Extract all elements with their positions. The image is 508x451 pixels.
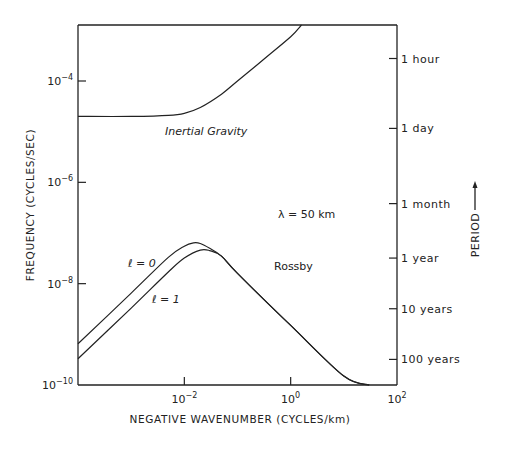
- plot-frame: [78, 25, 397, 385]
- x-axis-ticks: 10−2100102: [171, 377, 406, 406]
- inertial-gravity-curve: [78, 25, 302, 116]
- lambda-label: λ = 50 km: [278, 208, 335, 221]
- y-tick-label: 10−6: [47, 174, 73, 189]
- period-tick-label: 1 month: [401, 198, 451, 211]
- y-tick-label: 10−4: [47, 73, 73, 88]
- period-tick-label: 1 year: [401, 252, 439, 265]
- period-axis-title: PERIOD: [469, 213, 482, 258]
- l0-label: ℓ = 0: [127, 257, 156, 270]
- x-tick-label: 10−2: [171, 391, 197, 406]
- x-tick-label: 102: [387, 391, 406, 406]
- period-tick-label: 1 day: [401, 122, 434, 135]
- curves: [78, 25, 369, 385]
- l1-label: ℓ = 1: [151, 293, 180, 306]
- rossby-l0-curve: [78, 243, 369, 385]
- y-tick-label: 10−8: [47, 276, 73, 291]
- period-arrow-icon: [473, 181, 478, 210]
- y-axis-ticks: 10−410−610−810−10: [42, 73, 86, 392]
- period-axis-ticks: 1 hour1 day1 month1 year10 years100 year…: [389, 53, 460, 367]
- inertial-gravity-label: Inertial Gravity: [165, 125, 248, 138]
- x-axis-title: NEGATIVE WAVENUMBER (CYCLES/km): [130, 413, 351, 425]
- rossby-label: Rossby: [274, 260, 313, 273]
- rossby-l1-curve: [78, 249, 369, 385]
- period-tick-label: 1 hour: [401, 53, 440, 66]
- y-tick-label: 10−10: [42, 377, 73, 392]
- period-tick-label: 100 years: [401, 353, 460, 366]
- period-tick-label: 10 years: [401, 303, 453, 316]
- dispersion-chart: 10−410−610−810−10 10−2100102 1 hour1 day…: [0, 0, 508, 451]
- y-axis-title: FREQUENCY (CYCLES/SEC): [24, 129, 36, 281]
- x-tick-label: 100: [281, 391, 300, 406]
